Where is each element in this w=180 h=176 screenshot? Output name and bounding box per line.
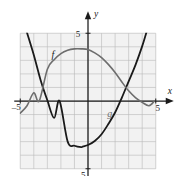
x-axis-label: x (167, 86, 173, 96)
y-axis-label: y (93, 9, 99, 19)
tick-label-y-plus5: 5 (76, 29, 81, 39)
tick-label-y-minus5: –5 (76, 170, 87, 176)
x-axis-arrow (166, 98, 174, 104)
graph-figure: xy–555–5fg (0, 0, 180, 176)
curve-label-g: g (107, 108, 112, 119)
tick-label-x-minus5: –5 (11, 102, 22, 112)
y-axis-arrow (85, 11, 91, 19)
coordinate-plane: xy–555–5fg (0, 0, 180, 176)
tick-label-x-plus5: 5 (156, 103, 161, 113)
